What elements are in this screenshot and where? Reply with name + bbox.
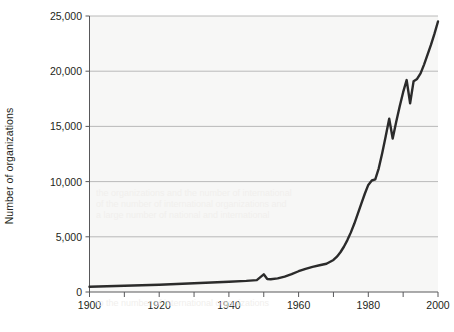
plot-background [90,16,439,292]
svg-text:of the number of international: of the number of international organizat… [96,199,287,209]
svg-text:to the number of international: to the number of international organizat… [96,298,270,308]
chart-container: Number of organizations 05,00010,00015,0… [0,0,454,332]
line-chart-plot: the organizations and the number of inte… [0,0,454,332]
svg-text:a large number of national and: a large number of national and internati… [96,210,270,220]
svg-text:the organizations and the numb: the organizations and the number of inte… [96,188,292,198]
